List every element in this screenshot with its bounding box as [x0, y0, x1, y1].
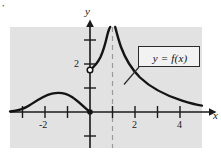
x-tick-label-4: 4 [177, 120, 182, 130]
x-tick-label-neg2: -2 [39, 120, 47, 130]
closed-point-origin [87, 109, 93, 115]
legend-box: y = f(x) [138, 46, 200, 67]
open-point-hole [87, 67, 93, 73]
y-tick-label-2: 2 [74, 59, 79, 69]
x-tick-label-2: 2 [132, 120, 137, 130]
legend-label: y = f(x) [139, 47, 201, 68]
graph-figure [0, 0, 221, 157]
y-axis-label: y [85, 6, 90, 17]
x-axis-label: x [213, 110, 218, 121]
